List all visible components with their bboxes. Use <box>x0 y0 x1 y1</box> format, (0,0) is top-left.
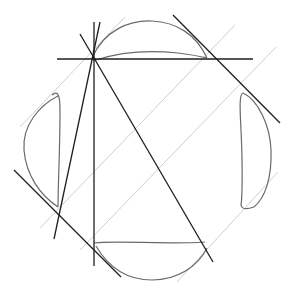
construction-lines <box>14 15 280 277</box>
right-lens-inner <box>240 93 254 209</box>
bottom-lens-outer <box>96 246 207 280</box>
steep-line <box>54 22 100 239</box>
bottom-lens-inner <box>94 242 205 243</box>
top-lens-outer <box>92 21 207 58</box>
left-lens-outer <box>24 96 58 207</box>
vertex-point <box>92 57 95 60</box>
guide-line-3 <box>80 47 276 250</box>
left-lens-inner <box>52 93 60 207</box>
top-right-tangent-line <box>173 15 280 123</box>
guide-line-1 <box>20 17 125 127</box>
geometric-diagram <box>0 0 293 296</box>
